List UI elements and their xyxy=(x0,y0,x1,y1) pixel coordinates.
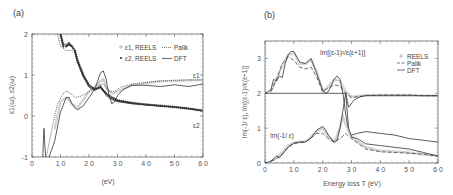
svg-text:2: 2 xyxy=(24,31,28,38)
svg-text:0: 0 xyxy=(257,160,261,167)
data-curves-a xyxy=(43,33,203,157)
svg-text:1: 1 xyxy=(24,72,28,79)
legend-entry-reels: REELS xyxy=(407,53,429,60)
legend-entry-e2-reels: ε2, REELS xyxy=(125,55,157,62)
legend-a: ε1, REELS Palik ε2, REELS DFT xyxy=(120,44,189,62)
svg-text:4 0: 4 0 xyxy=(375,166,385,173)
figure-canvas: 01 02 03 04 05 06 0-1012 (eV) ε1(ω), ε2(… xyxy=(0,0,453,195)
svg-text:0: 0 xyxy=(30,160,34,167)
legend-b: REELS Palik DFT xyxy=(397,53,429,74)
svg-text:6 0: 6 0 xyxy=(198,160,208,167)
legend-entry-e1-reels: ε1, REELS xyxy=(125,44,157,51)
legend-entry-dft: DFT xyxy=(174,55,187,62)
svg-text:5 0: 5 0 xyxy=(404,166,414,173)
svg-text:0: 0 xyxy=(24,113,28,120)
svg-text:6 0: 6 0 xyxy=(433,166,443,173)
svg-text:4 0: 4 0 xyxy=(141,160,151,167)
legend-marker-open-icon xyxy=(120,46,122,48)
svg-text:3 0: 3 0 xyxy=(347,166,357,173)
chart-a: 01 02 03 04 05 06 0-1012 (eV) ε1(ω), ε2(… xyxy=(8,31,208,187)
legend-entry-dft: DFT xyxy=(407,67,420,74)
y-axis-title-a: ε1(ω), ε2(ω) xyxy=(8,76,16,114)
svg-text:1: 1 xyxy=(257,125,261,132)
legend-marker-open-icon xyxy=(400,55,402,57)
svg-text:3 0: 3 0 xyxy=(113,160,123,167)
svg-text:2 0: 2 0 xyxy=(84,160,94,167)
svg-text:1 0: 1 0 xyxy=(56,160,66,167)
chart-b: 01 02 03 04 05 06 00123 Energy loss T (e… xyxy=(241,41,443,188)
annotation-e1: ε1 xyxy=(193,72,200,79)
annotation-bulk: Im(-1/ ε) xyxy=(270,132,294,140)
legend-entry-palik: Palik xyxy=(407,60,422,67)
svg-text:5 0: 5 0 xyxy=(170,160,180,167)
x-axis-title-b: Energy loss T (eV) xyxy=(323,180,381,188)
annotation-surface: Im[(ε-1)²/ε(ε+1)] xyxy=(320,49,366,57)
legend-entry-palik: Palik xyxy=(174,44,189,51)
legend-marker-filled-icon xyxy=(120,57,122,59)
svg-text:2 0: 2 0 xyxy=(318,166,328,173)
x-axis-title-a: (eV) xyxy=(101,178,114,186)
svg-text:1 0: 1 0 xyxy=(289,166,299,173)
y-axis-title-b: Im(-1/ ε), Im[(ε-1)²/ε(ε+1)] xyxy=(241,65,249,138)
svg-text:2: 2 xyxy=(257,90,261,97)
svg-text:0: 0 xyxy=(263,166,267,173)
svg-text:3: 3 xyxy=(257,55,261,62)
svg-text:-1: -1 xyxy=(22,154,28,161)
annotation-e2: ε2 xyxy=(193,122,200,129)
